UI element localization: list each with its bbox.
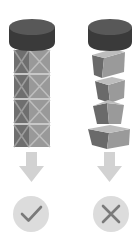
- crate: [14, 50, 50, 75]
- down-arrow-icon: [19, 152, 44, 182]
- diagram-canvas: [0, 0, 140, 243]
- crate: [14, 125, 50, 147]
- block: [88, 125, 130, 149]
- cap: [9, 19, 55, 51]
- panel-correct: [9, 19, 55, 232]
- block: [92, 49, 125, 78]
- result-incorrect: [93, 196, 129, 232]
- down-arrow-icon: [97, 152, 122, 182]
- block: [95, 77, 125, 103]
- panel-incorrect: [88, 19, 132, 232]
- crate: [14, 100, 50, 125]
- block-stack-misaligned: [88, 49, 130, 149]
- crate-column: [14, 50, 50, 147]
- stacking-diagram: [0, 0, 140, 243]
- cap: [88, 19, 132, 51]
- result-correct: [13, 196, 49, 232]
- crate: [14, 75, 50, 100]
- block: [93, 100, 124, 124]
